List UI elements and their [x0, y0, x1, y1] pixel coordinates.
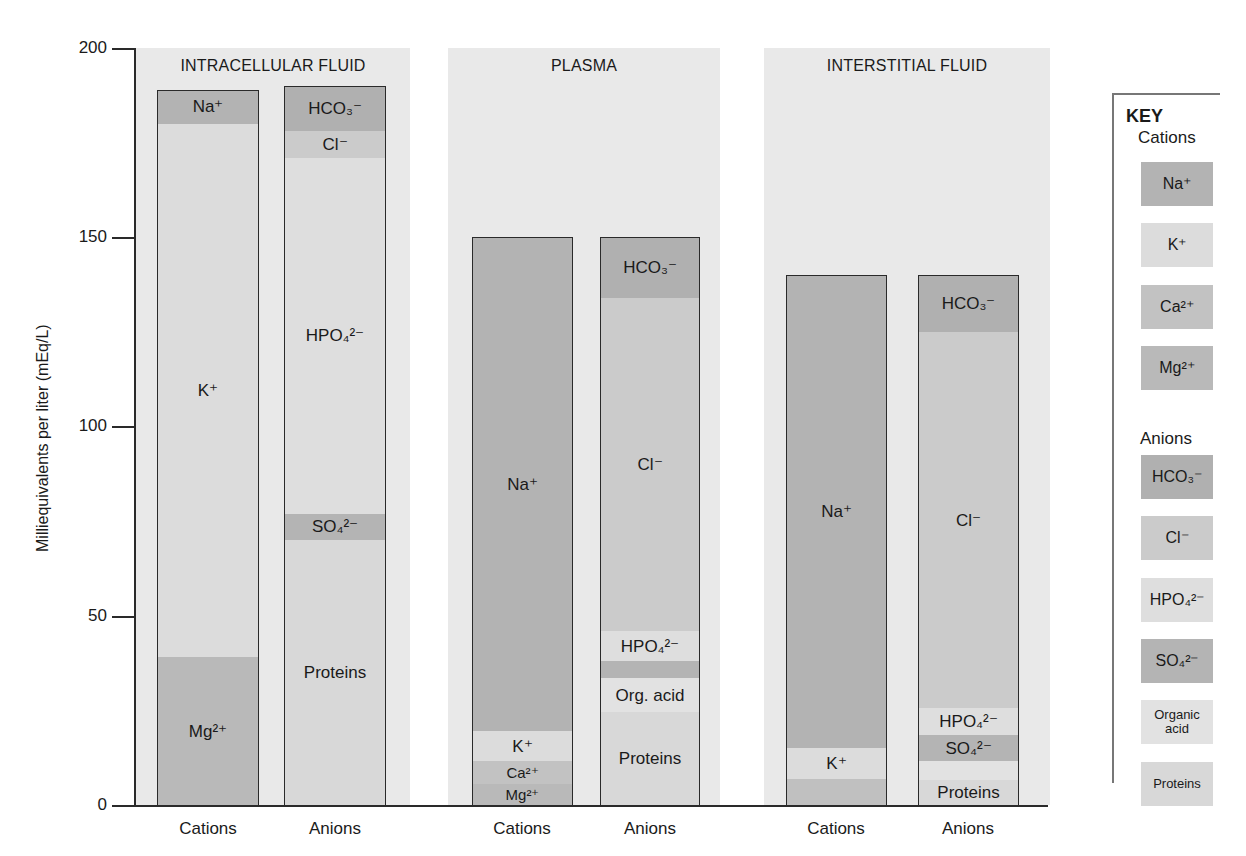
segment-proteins: Proteins: [919, 780, 1018, 805]
legend-title: KEY: [1126, 106, 1163, 127]
legend: KEY Cations Na⁺ K⁺ Ca²⁺ Mg²⁺ Anions HCO₃…: [1112, 93, 1246, 855]
legend-swatch-mg: Mg²⁺: [1141, 346, 1213, 390]
bar-interstitial-fluid-anions: ProteinsSO₄²⁻HPO₄²⁻Cl⁻HCO₃⁻: [918, 275, 1019, 806]
y-axis-label: Milliequivalents per liter (mEq/L): [34, 302, 52, 552]
segment-k-: K⁺: [473, 731, 572, 761]
segment-proteins: Proteins: [285, 540, 385, 805]
segment-organic-acid: [919, 761, 1018, 780]
legend-swatch-ca: Ca²⁺: [1141, 285, 1213, 329]
legend-border-left: [1112, 93, 1114, 783]
segment-label: HPO₄²⁻: [939, 713, 997, 730]
segment-label: Cl⁻: [637, 456, 662, 473]
segment-cl-: Cl⁻: [285, 131, 385, 157]
segment-ca2-mg2-: [787, 779, 886, 805]
legend-swatch-k: K⁺: [1141, 223, 1213, 267]
segment-label: K⁺: [826, 755, 846, 772]
segment-na-: Na⁺: [787, 275, 886, 748]
segment-label: K⁺: [198, 382, 218, 399]
segment-label: HCO₃⁻: [942, 295, 996, 312]
segment-label: Na⁺: [821, 503, 852, 520]
y-tick-200: [112, 48, 134, 50]
bar-intracellular-fluid-anions: ProteinsSO₄²⁻HPO₄²⁻Cl⁻HCO₃⁻: [284, 86, 386, 806]
legend-swatch-proteins: Proteins: [1141, 762, 1213, 806]
section-title-intracellular: INTRACELLULAR FLUID: [136, 57, 410, 75]
segment-so4-2-: [601, 661, 699, 678]
segment-hpo4-2-: HPO₄²⁻: [919, 708, 1018, 734]
section-title-plasma: PLASMA: [448, 57, 720, 75]
segment-label: HPO₄²⁻: [621, 638, 679, 655]
segment-label: SO₄²⁻: [945, 740, 991, 757]
segment-label: Org. acid: [616, 687, 685, 704]
segment-mg2-: Mg²⁺: [473, 784, 572, 805]
segment-hco3-: HCO₃⁻: [601, 237, 699, 298]
legend-swatch-hpo4: HPO₄²⁻: [1141, 578, 1213, 622]
segment-label: Na⁺: [193, 98, 224, 115]
y-tick-100: [112, 426, 134, 428]
segment-k-: K⁺: [158, 124, 258, 658]
segment-so4-2-: SO₄²⁻: [919, 735, 1018, 761]
bar-intracellular-fluid-cations: Mg²⁺K⁺Na⁺: [157, 90, 259, 806]
segment-label: Mg²⁺: [189, 723, 227, 740]
segment-label: Cl⁻: [956, 512, 981, 529]
x-label-is-anions: Anions: [913, 819, 1023, 839]
segment-cl-: Cl⁻: [919, 332, 1018, 709]
x-label-is-cations: Cations: [781, 819, 891, 839]
y-tick-label-0: 0: [57, 795, 107, 815]
segment-label: Proteins: [937, 784, 999, 801]
segment-label: Proteins: [619, 750, 681, 767]
segment-hco3-: HCO₃⁻: [919, 275, 1018, 332]
segment-label: Ca²⁺: [506, 765, 538, 780]
segment-k-: K⁺: [787, 748, 886, 778]
segment-label: Cl⁻: [322, 136, 347, 153]
segment-label: Mg²⁺: [506, 787, 540, 802]
segment-na-: Na⁺: [158, 90, 258, 124]
segment-label: Proteins: [304, 664, 366, 681]
section-title-interstitial: INTERSTITIAL FLUID: [764, 57, 1050, 75]
x-label-ic-anions: Anions: [280, 819, 390, 839]
segment-na-: Na⁺: [473, 237, 572, 731]
legend-swatch-hco3: HCO₃⁻: [1141, 455, 1213, 499]
y-tick-label-50: 50: [57, 606, 107, 626]
segment-so4-2-: SO₄²⁻: [285, 514, 385, 540]
segment-label: HCO₃⁻: [308, 100, 362, 117]
segment-hpo4-2-: HPO₄²⁻: [601, 631, 699, 661]
segment-label: SO₄²⁻: [312, 518, 358, 535]
segment-label: HCO₃⁻: [623, 259, 677, 276]
segment-hco3-: HCO₃⁻: [285, 86, 385, 131]
segment-label: HPO₄²⁻: [306, 327, 364, 344]
segment-label: K⁺: [512, 738, 532, 755]
y-tick-label-100: 100: [57, 416, 107, 436]
legend-swatch-so4: SO₄²⁻: [1141, 639, 1213, 683]
x-label-pl-cations: Cations: [467, 819, 577, 839]
segment-hpo4-2-: HPO₄²⁻: [285, 158, 385, 514]
x-label-ic-cations: Cations: [153, 819, 263, 839]
x-label-pl-anions: Anions: [595, 819, 705, 839]
legend-anions-heading: Anions: [1140, 429, 1192, 449]
legend-cations-heading: Cations: [1138, 128, 1196, 148]
bar-interstitial-fluid-cations: K⁺Na⁺: [786, 275, 887, 806]
segment-organic-acid: Org. acid: [601, 678, 699, 712]
y-tick-150: [112, 237, 134, 239]
bar-plasma-cations: Mg²⁺Ca²⁺K⁺Na⁺: [472, 237, 573, 806]
segment-proteins: Proteins: [601, 712, 699, 805]
legend-swatch-organic-acid: Organic acid: [1141, 700, 1213, 744]
legend-swatch-na: Na⁺: [1141, 162, 1213, 206]
segment-label: Na⁺: [507, 476, 538, 493]
segment-mg2-: Mg²⁺: [158, 657, 258, 805]
y-tick-label-150: 150: [57, 227, 107, 247]
bar-plasma-anions: ProteinsOrg. acidHPO₄²⁻Cl⁻HCO₃⁻: [600, 237, 700, 806]
segment-ca2-: Ca²⁺: [473, 761, 572, 784]
legend-border-top: [1112, 93, 1220, 95]
y-tick-label-200: 200: [57, 38, 107, 58]
segment-cl-: Cl⁻: [601, 298, 699, 631]
legend-swatch-cl: Cl⁻: [1141, 516, 1213, 560]
y-tick-50: [112, 616, 134, 618]
